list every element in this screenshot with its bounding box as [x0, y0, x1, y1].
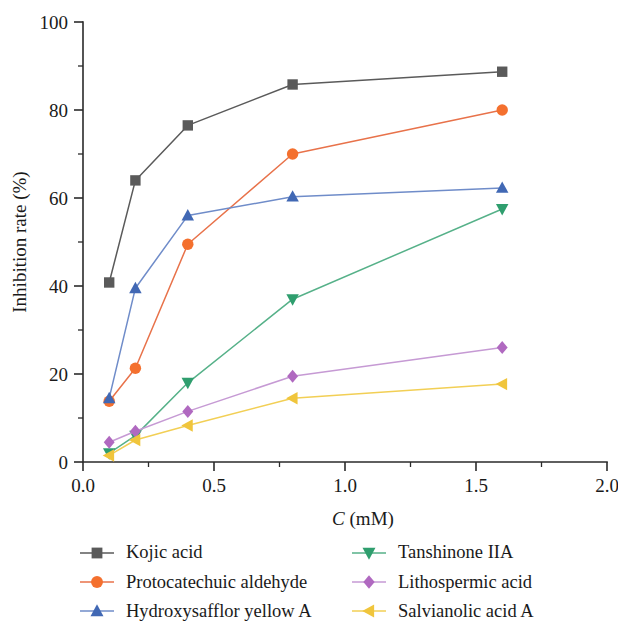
line-chart-plot: 0204060801000.00.51.01.52.0 C (mM)Inhibi… [0, 0, 618, 530]
svg-text:C (mM): C (mM) [332, 508, 394, 530]
data-point [130, 175, 140, 185]
chart-legend: Kojic acid Tanshinone IIA Protocatechuic… [78, 538, 618, 626]
series-kojic-acid [104, 67, 507, 288]
legend-label: Kojic acid [116, 543, 203, 562]
axes [83, 22, 607, 462]
data-point [181, 419, 192, 431]
svg-text:40: 40 [49, 276, 68, 297]
data-point [130, 363, 141, 374]
svg-text:80: 80 [49, 100, 68, 121]
data-point [103, 392, 115, 403]
axis-tick-labels: 0204060801000.00.51.01.52.0 [40, 12, 618, 497]
svg-text:100: 100 [40, 12, 69, 33]
svg-text:Inhibition rate (%): Inhibition rate (%) [9, 171, 31, 312]
svg-text:2.0: 2.0 [595, 475, 618, 496]
legend-marker-diamond-icon [350, 571, 388, 593]
legend-label: Lithospermic acid [388, 573, 532, 592]
series-tanshinone-iia [103, 204, 508, 460]
data-point [497, 67, 507, 77]
legend-item-protocatechuic-aldehyde[interactable]: Protocatechuic aldehyde [78, 567, 350, 596]
data-point [104, 436, 115, 449]
legend-item-salvianolic-acid-a[interactable]: Salvianolic acid A [350, 597, 618, 626]
legend-label: Tanshinone IIA [388, 543, 513, 562]
svg-text:20: 20 [49, 364, 68, 385]
svg-text:60: 60 [49, 188, 68, 209]
legend-marker-triangle-left-icon [350, 600, 388, 622]
axis-ticks [74, 22, 607, 471]
data-point [496, 204, 508, 215]
data-point [287, 370, 298, 383]
legend-label: Salvianolic acid A [388, 602, 534, 621]
legend-marker-triangle-up-icon [78, 600, 116, 622]
series-hydroxysafflor-yellow-a [103, 181, 508, 403]
data-series [103, 67, 509, 462]
series-salvianolic-acid-a [103, 378, 507, 462]
figure-container: 0204060801000.00.51.01.52.0 C (mM)Inhibi… [0, 0, 618, 626]
legend-item-kojic-acid[interactable]: Kojic acid [78, 538, 350, 567]
data-point [104, 277, 114, 287]
legend-label: Protocatechuic aldehyde [116, 573, 307, 592]
data-point [496, 378, 507, 390]
data-point [183, 120, 193, 130]
legend-item-tanshinone-iia[interactable]: Tanshinone IIA [350, 538, 618, 567]
legend-marker-square-icon [78, 542, 116, 564]
legend-item-lithospermic-acid[interactable]: Lithospermic acid [350, 567, 618, 596]
svg-text:1.0: 1.0 [333, 475, 357, 496]
svg-text:0.5: 0.5 [202, 475, 226, 496]
data-point [497, 341, 508, 354]
svg-text:0.0: 0.0 [71, 475, 95, 496]
svg-text:0: 0 [59, 452, 69, 473]
legend-label: Hydroxysafflor yellow A [116, 602, 312, 621]
svg-text:1.5: 1.5 [464, 475, 488, 496]
data-point [286, 392, 297, 404]
data-point [286, 294, 298, 305]
data-point [182, 405, 193, 418]
legend-marker-triangle-down-icon [350, 542, 388, 564]
data-point [287, 79, 297, 89]
data-point [496, 181, 508, 192]
data-point [287, 148, 298, 159]
legend-item-hydroxysafflor-yellow-a[interactable]: Hydroxysafflor yellow A [78, 597, 350, 626]
data-point [496, 104, 507, 115]
data-point [182, 238, 193, 249]
legend-marker-circle-icon [78, 571, 116, 593]
